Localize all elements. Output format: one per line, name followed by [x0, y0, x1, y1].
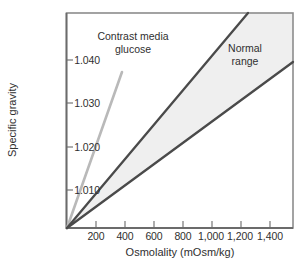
annotation-contrast-line-1: Contrast media	[97, 30, 168, 43]
y-tick-label-1-040: 1.040	[62, 54, 100, 66]
y-axis-title: Specific gravity	[6, 83, 18, 157]
x-tick-label-600: 600	[145, 230, 162, 242]
x-tick-label-800: 800	[174, 230, 191, 242]
annotation-normal-line-1: Normal	[228, 42, 262, 55]
annotation-normal-range: Normal range	[228, 42, 262, 67]
x-axis-tick-marks	[96, 221, 270, 228]
y-axis-tick-marks	[67, 60, 74, 190]
x-tick-label-1000: 1,000	[198, 230, 224, 242]
x-tick-label-400: 400	[116, 230, 133, 242]
chart-figure: 200 400 600 800 1,000 1,200 1,400 1.010 …	[0, 0, 308, 267]
annotation-contrast-media-glucose: Contrast media glucose	[97, 30, 168, 55]
x-tick-label-1400: 1,400	[257, 230, 283, 242]
x-axis-title: Osmolality (mOsm/kg)	[126, 246, 235, 258]
annotation-contrast-line-2: glucose	[97, 43, 168, 56]
y-tick-label-1-010: 1.010	[62, 184, 100, 196]
y-tick-label-1-020: 1.020	[62, 141, 100, 153]
x-tick-label-200: 200	[87, 230, 104, 242]
annotation-normal-line-2: range	[228, 55, 262, 68]
y-tick-label-1-030: 1.030	[62, 97, 100, 109]
series-line-normal-range-lower	[67, 62, 293, 228]
x-tick-label-1200: 1,200	[227, 230, 253, 242]
